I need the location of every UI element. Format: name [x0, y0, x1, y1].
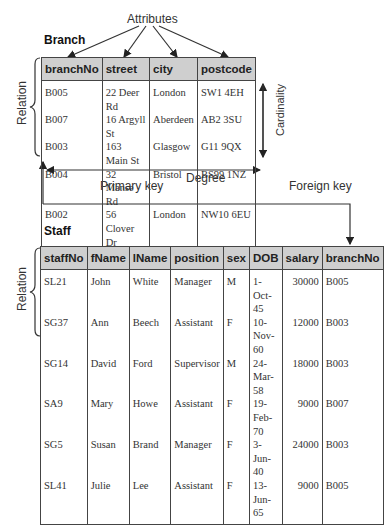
table-cell: B005: [322, 479, 383, 524]
table-cell: B004: [42, 168, 103, 209]
table-cell: Beech: [129, 316, 171, 357]
table-cell: Assistant: [171, 316, 224, 357]
table-cell: 13-Jun-65: [250, 479, 283, 524]
table-cell: Brand: [129, 438, 171, 479]
table-cell: B003: [42, 140, 103, 167]
table-cell: 163 Main St: [102, 140, 149, 167]
table-cell: SG14: [41, 357, 88, 398]
table-cell: Bristol: [150, 168, 198, 209]
table-row: SG37 Ann Beech Assistant F 10-Nov-60 120…: [41, 316, 384, 357]
table-cell: Ann: [87, 316, 129, 357]
table-cell: Lee: [129, 479, 171, 524]
table-cell: M: [223, 357, 249, 398]
relation-brace-branch: [30, 58, 40, 156]
table-cell: Glasgow: [150, 140, 198, 167]
table-cell: SA9: [41, 397, 88, 438]
table-cell: 16 Argyll St: [102, 113, 149, 140]
column-header: staffNo: [41, 247, 88, 270]
column-header: branchNo: [322, 247, 383, 270]
table-row: SA9 Mary Howe Assistant F 19-Feb-70 9000…: [41, 397, 384, 438]
table-cell: M: [223, 270, 249, 316]
staff-table: staffNo fName lName position sex DOB sal…: [40, 246, 384, 525]
table-cell: Supervisor: [171, 357, 224, 398]
table-cell: 1-Oct-45: [250, 270, 283, 316]
branch-header-row: branchNo street city postcode: [42, 58, 256, 81]
table-row: B003 163 Main St Glasgow G11 9QX: [42, 140, 256, 167]
table-cell: Mary: [87, 397, 129, 438]
column-header: salary: [282, 247, 322, 270]
table-cell: 24-Mar-58: [250, 357, 283, 398]
column-header: branchNo: [42, 58, 103, 81]
branch-title: Branch: [44, 33, 85, 47]
table-cell: G11 9QX: [197, 140, 255, 167]
table-cell: Howe: [129, 397, 171, 438]
table-cell: Assistant: [171, 397, 224, 438]
column-header: lName: [129, 247, 171, 270]
attributes-label: Attributes: [127, 12, 178, 26]
table-cell: Manager: [171, 438, 224, 479]
column-header: street: [102, 58, 149, 81]
table-cell: AB2 3SU: [197, 113, 255, 140]
attribute-arrow-postcode: [159, 26, 228, 57]
cardinality-label: Cardinality: [274, 80, 286, 140]
table-cell: SL41: [41, 479, 88, 524]
table-cell: 9000: [282, 397, 322, 438]
table-cell: B003: [322, 438, 383, 479]
table-cell: B007: [42, 113, 103, 140]
relation-label-staff: Relation: [15, 271, 29, 311]
table-row: B007 16 Argyll St Aberdeen AB2 3SU: [42, 113, 256, 140]
table-cell: Julie: [87, 479, 129, 524]
table-cell: SG5: [41, 438, 88, 479]
table-row: B004 32 Manse Rd Bristol BS99 1NZ: [42, 168, 256, 209]
column-header: sex: [223, 247, 249, 270]
table-cell: 30000: [282, 270, 322, 316]
table-cell: 19-Feb-70: [250, 397, 283, 438]
table-cell: B003: [322, 357, 383, 398]
column-header: postcode: [197, 58, 255, 81]
branch-table: branchNo street city postcode B005 22 De…: [41, 57, 256, 254]
table-cell: F: [223, 479, 249, 524]
table-cell: 3-Jun-40: [250, 438, 283, 479]
table-cell: B003: [322, 316, 383, 357]
table-cell: F: [223, 438, 249, 479]
table-cell: B007: [322, 397, 383, 438]
table-cell: London: [150, 81, 198, 114]
table-cell: BS99 1NZ: [197, 168, 255, 209]
foreign-key-label: Foreign key: [289, 179, 352, 193]
table-cell: 24000: [282, 438, 322, 479]
table-cell: B005: [322, 270, 383, 316]
table-cell: F: [223, 316, 249, 357]
column-header: position: [171, 247, 224, 270]
table-cell: 12000: [282, 316, 322, 357]
table-cell: 22 Deer Rd: [102, 81, 149, 114]
column-header: city: [150, 58, 198, 81]
table-cell: John: [87, 270, 129, 316]
table-cell: SL21: [41, 270, 88, 316]
relation-brace-staff: [30, 248, 40, 336]
column-header: fName: [87, 247, 129, 270]
table-cell: 10-Nov-60: [250, 316, 283, 357]
table-cell: David: [87, 357, 129, 398]
table-row: SG5 Susan Brand Manager F 3-Jun-40 24000…: [41, 438, 384, 479]
table-cell: B005: [42, 81, 103, 114]
table-cell: SW1 4EH: [197, 81, 255, 114]
relation-label-branch: Relation: [15, 85, 29, 125]
table-cell: F: [223, 397, 249, 438]
table-cell: 9000: [282, 479, 322, 524]
attribute-arrow-city: [153, 26, 177, 57]
table-row: B005 22 Deer Rd London SW1 4EH: [42, 81, 256, 114]
table-cell: Ford: [129, 357, 171, 398]
staff-header-row: staffNo fName lName position sex DOB sal…: [41, 247, 384, 270]
table-cell: 32 Manse Rd: [102, 168, 149, 209]
table-cell: Manager: [171, 270, 224, 316]
table-cell: Aberdeen: [150, 113, 198, 140]
table-row: SL21 John White Manager M 1-Oct-45 30000…: [41, 270, 384, 316]
table-row: SL41 Julie Lee Assistant F 13-Jun-65 900…: [41, 479, 384, 524]
table-cell: 18000: [282, 357, 322, 398]
table-cell: SG37: [41, 316, 88, 357]
table-cell: Assistant: [171, 479, 224, 524]
column-header: DOB: [250, 247, 283, 270]
table-cell: Susan: [87, 438, 129, 479]
table-row: SG14 David Ford Supervisor M 24-Mar-58 1…: [41, 357, 384, 398]
table-cell: White: [129, 270, 171, 316]
